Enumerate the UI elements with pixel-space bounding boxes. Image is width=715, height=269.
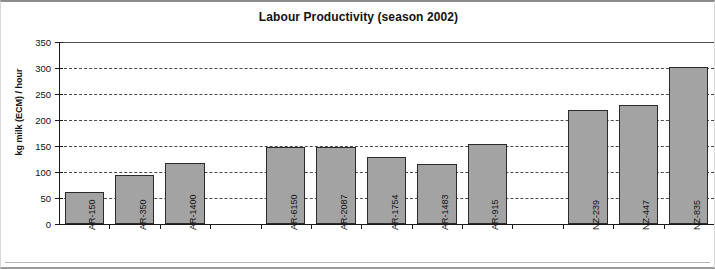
y-tick-mark xyxy=(55,42,63,43)
y-tick-label: 0 xyxy=(11,220,51,230)
plot-area: 350300250200150100500 AR-150AR-350AR-140… xyxy=(59,42,714,224)
bar[interactable] xyxy=(619,105,658,224)
x-tick-label: AR-2087 xyxy=(340,194,349,230)
y-tick-label: 50 xyxy=(11,194,51,204)
y-tick-mark xyxy=(55,172,63,173)
y-tick-label: 350 xyxy=(11,38,51,48)
x-tick-label: AR-1754 xyxy=(391,194,400,230)
x-tick-label: AR-915 xyxy=(491,199,500,230)
x-tick-label: AR-6150 xyxy=(290,194,299,230)
bottom-divider xyxy=(5,262,710,263)
x-tick-label: AR-150 xyxy=(88,199,97,230)
y-tick-mark xyxy=(55,68,63,69)
chart-title: Labour Productivity (season 2002) xyxy=(1,10,715,24)
x-tick-mark xyxy=(412,224,413,229)
x-tick-label: AR-1483 xyxy=(441,194,450,230)
gridline xyxy=(59,224,714,225)
x-tick-mark xyxy=(210,224,211,229)
x-tick-mark xyxy=(512,224,513,229)
gridline xyxy=(59,94,714,95)
x-tick-label: AR-1400 xyxy=(189,194,198,230)
gridline xyxy=(59,120,714,121)
x-tick-mark xyxy=(109,224,110,229)
y-tick-mark xyxy=(55,146,63,147)
bar[interactable] xyxy=(266,147,305,224)
x-tick-mark xyxy=(462,224,463,229)
bar[interactable] xyxy=(316,147,355,224)
gridline xyxy=(59,146,714,147)
x-tick-mark xyxy=(311,224,312,229)
x-tick-mark xyxy=(664,224,665,229)
y-tick-label: 250 xyxy=(11,90,51,100)
bar[interactable] xyxy=(165,163,204,224)
gridline xyxy=(59,68,714,69)
y-tick-label: 200 xyxy=(11,116,51,126)
bar[interactable] xyxy=(367,157,406,224)
bar[interactable] xyxy=(417,164,456,224)
bar[interactable] xyxy=(568,110,607,224)
x-tick-mark xyxy=(361,224,362,229)
y-tick-label: 150 xyxy=(11,142,51,152)
bar[interactable] xyxy=(115,175,154,224)
x-tick-label: NZ-835 xyxy=(693,200,702,230)
bar[interactable] xyxy=(65,192,104,224)
x-tick-mark xyxy=(563,224,564,229)
y-tick-label: 300 xyxy=(11,64,51,74)
x-tick-mark xyxy=(613,224,614,229)
x-tick-label: AR-350 xyxy=(139,199,148,230)
x-tick-label: NZ-447 xyxy=(642,200,651,230)
y-tick-mark xyxy=(55,120,63,121)
bar[interactable] xyxy=(669,67,708,224)
y-axis-line xyxy=(59,42,60,224)
x-tick-label: NZ-239 xyxy=(592,200,601,230)
y-tick-mark xyxy=(55,94,63,95)
y-tick-label: 100 xyxy=(11,168,51,178)
chart-figure: Labour Productivity (season 2002) kg mil… xyxy=(0,0,715,269)
y-tick-mark xyxy=(55,198,63,199)
x-tick-mark xyxy=(261,224,262,229)
gridline xyxy=(59,42,714,43)
x-tick-mark xyxy=(160,224,161,229)
y-tick-mark xyxy=(55,224,63,225)
bar[interactable] xyxy=(468,144,507,224)
